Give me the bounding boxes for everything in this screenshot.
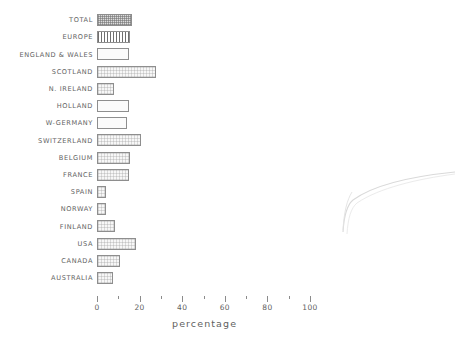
x-axis-title: percentage (0, 318, 455, 329)
bar (97, 66, 156, 78)
category-label: TOTAL (0, 17, 97, 24)
axis-tick-major (97, 296, 98, 302)
axis-tick-major (182, 296, 183, 302)
bar-row: NORWAY (0, 201, 300, 218)
category-label: HOLLAND (0, 103, 97, 110)
bar-track (97, 218, 300, 235)
bar (97, 186, 106, 198)
bar-track (97, 184, 300, 201)
bar (97, 220, 115, 232)
bar (97, 152, 130, 164)
axis-tick-major (267, 296, 268, 302)
axis-tick-major (225, 296, 226, 302)
category-label: ENGLAND & WALES (0, 52, 97, 59)
category-label: SWITZERLAND (0, 138, 97, 145)
bar-row: FINLAND (0, 218, 300, 235)
bar-track (97, 236, 300, 253)
bar-track (97, 29, 300, 46)
category-label: AUSTRALIA (0, 275, 97, 282)
bar-track (97, 201, 300, 218)
bar-track (97, 98, 300, 115)
bar-track (97, 132, 300, 149)
category-label: CANADA (0, 258, 97, 265)
axis-tick-label: 0 (94, 303, 99, 312)
bar-track (97, 253, 300, 270)
bar (97, 14, 132, 26)
bar (97, 255, 120, 267)
category-label: USA (0, 241, 97, 248)
bar-row: BELGIUM (0, 150, 300, 167)
bar-track (97, 81, 300, 98)
axis-tick-minor (204, 296, 205, 299)
category-label: SCOTLAND (0, 69, 97, 76)
bar-row: SPAIN (0, 184, 300, 201)
bar-row: ENGLAND & WALES (0, 46, 300, 63)
bar (97, 203, 106, 215)
category-label: N. IRELAND (0, 86, 97, 93)
bar-row: CANADA (0, 253, 300, 270)
category-label: FINLAND (0, 224, 97, 231)
axis-tick-major (310, 296, 311, 302)
bar-track (97, 270, 300, 287)
axis-tick-minor (118, 296, 119, 299)
bar (97, 272, 113, 284)
axis-tick-minor (289, 296, 290, 299)
bar-row: HOLLAND (0, 98, 300, 115)
scan-edge-artifact (305, 170, 455, 240)
bar-row: EUROPE (0, 29, 300, 46)
bar-track (97, 167, 300, 184)
bar (97, 83, 114, 95)
category-label: SPAIN (0, 189, 97, 196)
category-label: BELGIUM (0, 155, 97, 162)
bar-row: FRANCE (0, 167, 300, 184)
category-label: W-GERMANY (0, 120, 97, 127)
bar-row: TOTAL (0, 12, 300, 29)
axis-tick-label: 60 (220, 303, 230, 312)
axis-tick-label: 40 (177, 303, 187, 312)
bar-row: USA (0, 236, 300, 253)
category-label: NORWAY (0, 206, 97, 213)
axis-tick-label: 100 (302, 303, 318, 312)
category-label: FRANCE (0, 172, 97, 179)
bar-row: N. IRELAND (0, 81, 300, 98)
bar-track (97, 12, 300, 29)
axis-tick-label: 80 (262, 303, 272, 312)
bar (97, 31, 130, 43)
bar (97, 100, 129, 112)
bar-row: W-GERMANY (0, 115, 300, 132)
axis-tick-minor (161, 296, 162, 299)
bar-row: SCOTLAND (0, 64, 300, 81)
horizontal-bar-chart: TOTALEUROPEENGLAND & WALESSCOTLANDN. IRE… (0, 0, 455, 344)
bar-row: SWITZERLAND (0, 132, 300, 149)
axis-tick-label: 20 (134, 303, 144, 312)
bar (97, 48, 129, 60)
bar (97, 117, 127, 129)
bar-track (97, 64, 300, 81)
bar-track (97, 115, 300, 132)
bar (97, 169, 129, 181)
bar (97, 238, 136, 250)
category-label: EUROPE (0, 34, 97, 41)
bar-track (97, 46, 300, 63)
bar (97, 134, 141, 146)
axis-tick-major (140, 296, 141, 302)
bar-track (97, 150, 300, 167)
bar-row: AUSTRALIA (0, 270, 300, 287)
x-axis: 020406080100 (0, 296, 455, 316)
axis-tick-minor (246, 296, 247, 299)
